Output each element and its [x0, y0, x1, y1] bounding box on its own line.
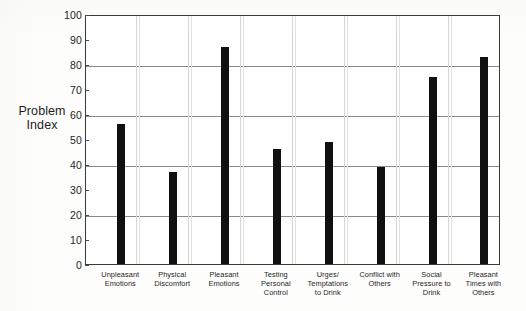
category-separator-2: [191, 16, 192, 264]
category-separator-4: [295, 16, 296, 264]
category-separator-6: [396, 16, 397, 264]
y-tick-mark-90: [85, 40, 89, 41]
y-tick-label-30: 30: [56, 184, 82, 196]
category-separator-4: [292, 16, 293, 264]
y-tick-mark-0: [85, 265, 89, 266]
y-tick-mark-100: [85, 15, 89, 16]
y-tick-mark-60: [85, 115, 89, 116]
y-tick-label-80: 80: [56, 59, 82, 71]
y-tick-label-50: 50: [56, 134, 82, 146]
y-tick-label-20: 20: [56, 209, 82, 221]
chart-page: Problem Index 0102030405060708090100 Unp…: [0, 0, 526, 311]
y-tick-mark-80: [85, 65, 89, 66]
category-separator-5: [347, 16, 348, 264]
bar[interactable]: [169, 172, 177, 265]
y-tick-mark-50: [85, 140, 89, 141]
category-separator-5: [344, 16, 345, 264]
y-tick-label-40: 40: [56, 159, 82, 171]
category-separator-1: [136, 16, 137, 264]
y-tick-mark-10: [85, 240, 89, 241]
x-axis-category-label: PleasantTimes withOthers: [452, 270, 514, 298]
category-separator-1: [139, 16, 140, 264]
y-tick-mark-70: [85, 90, 89, 91]
bar[interactable]: [429, 77, 437, 265]
y-tick-mark-40: [85, 165, 89, 166]
y-tick-label-90: 90: [56, 34, 82, 46]
category-separator-6: [399, 16, 400, 264]
bar[interactable]: [325, 142, 333, 265]
category-separator-7: [451, 16, 452, 264]
y-tick-mark-30: [85, 190, 89, 191]
bar[interactable]: [117, 124, 125, 264]
x-axis-category-label-line: Times with: [452, 279, 514, 288]
category-separator-2: [188, 16, 189, 264]
y-axis: 0102030405060708090100: [52, 15, 82, 265]
y-tick-label-100: 100: [56, 9, 82, 21]
y-tick-label-0: 0: [56, 259, 82, 271]
y-tick-mark-20: [85, 215, 89, 216]
x-axis-category-label-line: to Drink: [297, 288, 359, 297]
y-tick-label-60: 60: [56, 109, 82, 121]
bar[interactable]: [377, 167, 385, 265]
category-separator-3: [240, 16, 241, 264]
y-tick-label-10: 10: [56, 234, 82, 246]
x-axis-category-label-line: Pleasant: [452, 270, 514, 279]
plot-area: [85, 15, 500, 265]
bar[interactable]: [480, 57, 488, 265]
category-separator-3: [243, 16, 244, 264]
bar[interactable]: [273, 149, 281, 264]
bar[interactable]: [221, 47, 229, 265]
x-axis-category-label-line: Others: [452, 288, 514, 297]
y-tick-label-70: 70: [56, 84, 82, 96]
category-separator-7: [448, 16, 449, 264]
